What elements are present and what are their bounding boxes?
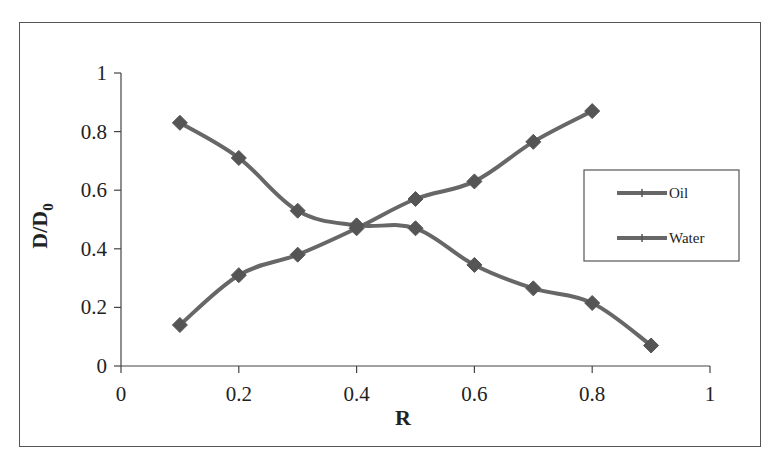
y-axis-title-subscript: 0 bbox=[40, 203, 56, 211]
y-tick-label: 0 bbox=[97, 354, 108, 378]
diamond-marker-icon bbox=[585, 104, 600, 119]
series-oil bbox=[172, 104, 599, 333]
svg-text:D/D0: D/D0 bbox=[27, 203, 56, 248]
x-tick-label: 0.2 bbox=[226, 382, 252, 406]
y-tick-label: 0.4 bbox=[81, 237, 108, 261]
y-tick-label: 0.2 bbox=[81, 295, 107, 319]
x-tick-label: 0.8 bbox=[579, 382, 605, 406]
diamond-marker-icon bbox=[467, 174, 482, 189]
x-tick-label: 1 bbox=[705, 382, 716, 406]
x-tick-label: 0.4 bbox=[343, 382, 370, 406]
diamond-marker-icon bbox=[290, 247, 305, 262]
x-tick-label: 0 bbox=[116, 382, 127, 406]
y-axis-title: D/D0 bbox=[27, 203, 56, 248]
legend: Oil Water bbox=[584, 170, 739, 261]
diamond-marker-icon bbox=[408, 191, 423, 206]
legend-label-oil: Oil bbox=[669, 185, 688, 201]
legend-box bbox=[584, 170, 739, 261]
x-axis-title: R bbox=[395, 405, 412, 430]
y-tick-label: 0.6 bbox=[81, 178, 107, 202]
diamond-marker-icon bbox=[526, 281, 541, 296]
y-axis-title-main: D/D bbox=[27, 211, 52, 249]
y-tick-label: 1 bbox=[97, 61, 108, 85]
diamond-marker-icon bbox=[408, 221, 423, 236]
diamond-marker-icon bbox=[585, 296, 600, 311]
y-tick-label: 0.8 bbox=[81, 120, 107, 144]
legend-label-water: Water bbox=[669, 230, 704, 246]
x-tick-label: 0.6 bbox=[461, 382, 487, 406]
line-chart: 00.20.40.60.8100.20.40.60.81 R D/D0 Oil … bbox=[0, 0, 778, 464]
